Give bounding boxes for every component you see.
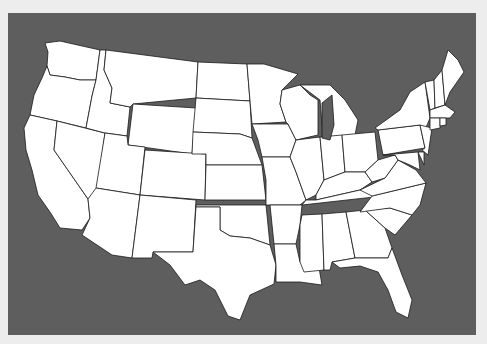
state-wa (45, 41, 100, 80)
state-ks (205, 165, 266, 200)
state-nd (196, 62, 250, 101)
state-ny (375, 82, 430, 130)
state-mt (104, 50, 198, 107)
state-ar (270, 205, 302, 244)
state-nm (132, 195, 196, 258)
lake-michigan (322, 95, 334, 140)
state-ri (440, 118, 446, 126)
state-ms (300, 214, 324, 272)
us-outline-map (0, 0, 487, 344)
state-ct (430, 118, 440, 130)
state-az (82, 188, 140, 258)
state-co (140, 150, 206, 200)
state-ia (252, 124, 296, 157)
state-me (442, 50, 464, 105)
